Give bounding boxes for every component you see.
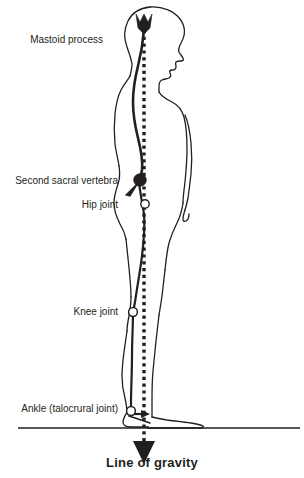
- label-knee-joint-text: Knee joint: [74, 306, 118, 317]
- label-second-sacral-vertebra-text: Second sacral vertebra: [15, 175, 118, 186]
- label-hip-joint-text: Hip joint: [82, 199, 118, 210]
- caption-line-of-gravity-text: Line of gravity: [106, 455, 198, 470]
- label-mastoid-process: Mastoid process: [0, 34, 103, 46]
- label-ankle-talocrural-joint-text: Ankle (talocrural joint): [21, 403, 118, 414]
- second-sacral-vertebra-marker: [126, 174, 146, 196]
- label-second-sacral-vertebra: Second sacral vertebra: [0, 175, 118, 187]
- label-knee-joint: Knee joint: [0, 306, 118, 318]
- mastoid-arrowhead-icon: [136, 14, 152, 34]
- abdomen-thigh-front-outline: [165, 203, 183, 270]
- ankle-joint-marker: [127, 407, 150, 423]
- caption-line-of-gravity: Line of gravity: [0, 455, 304, 470]
- foot-top-outline: [148, 417, 203, 428]
- neck-chest-front-outline: [159, 92, 187, 203]
- knee-joint-marker: [129, 308, 138, 317]
- thigh-back-outline: [126, 239, 131, 297]
- head-profile-outline: [150, 7, 184, 92]
- calf-back-outline: [122, 331, 127, 412]
- upper-back-outline: [114, 76, 130, 166]
- sacral-filled-circle-icon: [134, 174, 146, 186]
- ankle-open-circle-icon: [127, 407, 136, 416]
- tibia-line: [131, 313, 133, 412]
- hip-joint-marker: [141, 200, 149, 208]
- shin-front-outline: [152, 315, 159, 417]
- label-ankle-talocrural-joint: Ankle (talocrural joint): [0, 403, 118, 415]
- body-outline-group: [114, 7, 203, 428]
- anatomy-figure: Mastoid process Second sacral vertebra H…: [0, 0, 304, 478]
- hand-outline: [183, 210, 189, 221]
- label-hip-joint: Hip joint: [0, 199, 118, 211]
- ankle-pointer-tail: [129, 416, 150, 423]
- mastoid-process-marker: [136, 14, 152, 34]
- knee-front-outline: [159, 270, 165, 315]
- label-mastoid-process-text: Mastoid process: [30, 34, 103, 45]
